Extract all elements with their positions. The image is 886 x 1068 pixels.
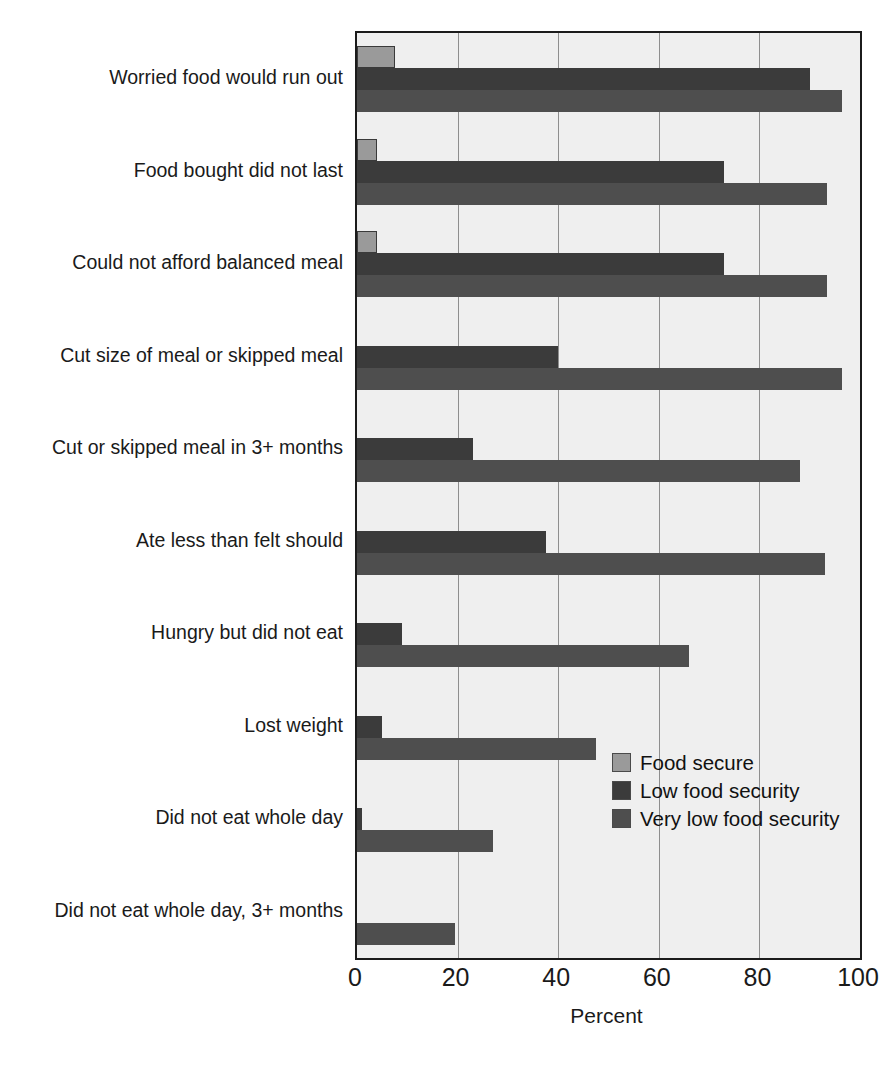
x-axis-tick-label: 60 <box>643 962 671 992</box>
bar-group <box>357 588 860 681</box>
legend-swatch-icon <box>612 781 631 800</box>
y-axis-label: Could not afford balanced meal <box>72 251 343 273</box>
chart-legend: Food secureLow food securityVery low foo… <box>612 750 839 831</box>
bar <box>357 139 377 161</box>
bar <box>357 645 689 667</box>
x-axis-tick-label: 0 <box>348 962 362 992</box>
y-axis-label: Cut size of meal or skipped meal <box>60 344 343 366</box>
y-axis-label: Food bought did not last <box>134 159 343 181</box>
legend-item[interactable]: Low food security <box>612 778 839 803</box>
y-axis-label: Hungry but did not eat <box>151 621 343 643</box>
bar <box>357 346 558 368</box>
bar <box>357 183 827 205</box>
bar <box>357 808 362 830</box>
bar <box>357 68 810 90</box>
legend-label: Low food security <box>640 780 800 802</box>
bar-group <box>357 126 860 219</box>
y-axis-label: Cut or skipped meal in 3+ months <box>52 436 343 458</box>
bar-group <box>357 311 860 404</box>
bar <box>357 460 800 482</box>
legend-label: Food secure <box>640 752 754 774</box>
x-axis-title: Percent <box>355 1004 858 1028</box>
y-axis-label: Lost weight <box>244 714 343 736</box>
y-axis-label: Did not eat whole day <box>155 806 343 828</box>
y-axis-labels: Worried food would run outFood bought di… <box>0 31 355 956</box>
bar-group <box>357 496 860 589</box>
legend-label: Very low food security <box>640 808 839 830</box>
bar-group <box>357 866 860 959</box>
bar <box>357 923 455 945</box>
bar <box>357 738 596 760</box>
x-axis-tick-label: 40 <box>542 962 570 992</box>
bar-group <box>357 403 860 496</box>
legend-item[interactable]: Very low food security <box>612 806 839 831</box>
bar <box>357 90 842 112</box>
bar-group <box>357 33 860 126</box>
bar <box>357 253 724 275</box>
bar <box>357 830 493 852</box>
x-axis-tick-label: 100 <box>837 962 879 992</box>
bar <box>357 438 473 460</box>
legend-item[interactable]: Food secure <box>612 750 839 775</box>
bar <box>357 531 546 553</box>
bar <box>357 46 395 68</box>
legend-swatch-icon <box>612 809 631 828</box>
x-axis-ticks: 020406080100 <box>355 962 858 996</box>
bar <box>357 231 377 253</box>
bar <box>357 368 842 390</box>
bar <box>357 553 825 575</box>
bar <box>357 716 382 738</box>
bar-chart: Worried food would run outFood bought di… <box>0 0 886 1068</box>
y-axis-label: Did not eat whole day, 3+ months <box>54 899 343 921</box>
bar <box>357 623 402 645</box>
x-axis-tick-label: 20 <box>442 962 470 992</box>
bar <box>357 275 827 297</box>
legend-swatch-icon <box>612 753 631 772</box>
x-axis-tick-label: 80 <box>743 962 771 992</box>
y-axis-label: Worried food would run out <box>109 66 343 88</box>
bar-group <box>357 218 860 311</box>
bar <box>357 161 724 183</box>
y-axis-label: Ate less than felt should <box>136 529 343 551</box>
